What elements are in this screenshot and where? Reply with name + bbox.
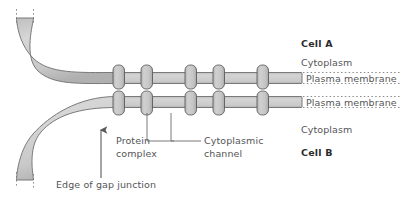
protein-complex-lower — [257, 91, 269, 115]
lower-membrane-segment — [268, 97, 302, 108]
callout-protein-complex-line1: Protein — [116, 135, 157, 148]
callout-cytoplasmic-channel: Cytoplasmic channel — [204, 135, 263, 160]
protein-complex-lower — [185, 91, 197, 115]
callout-edge-of-gap-junction: Edge of gap junction — [56, 180, 156, 190]
callout-cytoplasmic-channel-line1: Cytoplasmic — [204, 135, 263, 148]
figure-canvas: Cell A Cytoplasm Plasma membrane Plasma … — [0, 0, 407, 202]
label-plasma-membrane-bottom: Plasma membrane — [306, 98, 397, 108]
protein-complex-lower — [213, 91, 225, 115]
protein-complex-upper — [257, 65, 269, 89]
label-cytoplasm-bottom: Cytoplasm — [301, 125, 352, 135]
callout-cytoplasmic-channel-line2: channel — [204, 148, 263, 161]
callout-protein-complex-line2: complex — [116, 148, 157, 161]
upper-membrane-segment — [268, 73, 302, 84]
protein-complex-upper — [141, 65, 153, 89]
protein-complex-upper — [185, 65, 197, 89]
label-cell-a: Cell A — [301, 39, 333, 49]
label-cell-b: Cell B — [301, 148, 333, 158]
callout-protein-complex: Protein complex — [116, 135, 157, 160]
label-cytoplasm-top: Cytoplasm — [301, 58, 352, 68]
protein-complex-upper — [213, 65, 225, 89]
leader-line-cytoplasmic-channel — [171, 113, 201, 141]
protein-complex-lower — [113, 91, 125, 115]
label-plasma-membrane-top: Plasma membrane — [306, 74, 397, 84]
protein-complex-lower — [141, 91, 153, 115]
protein-complex-upper — [113, 65, 125, 89]
upper-curved-membrane — [17, 18, 117, 84]
